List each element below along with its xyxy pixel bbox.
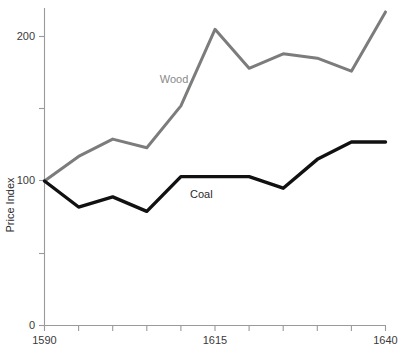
y-axis-title: Price Index (4, 177, 16, 233)
coal-series-label: Coal (190, 188, 213, 200)
chart-svg: 200 100 0 Price Index 1590 1615 1640 Woo… (0, 0, 401, 351)
price-index-line-chart: 200 100 0 Price Index 1590 1615 1640 Woo… (0, 0, 401, 351)
x-tick-label-1615: 1615 (203, 334, 227, 346)
y-tick-label-100: 100 (17, 174, 35, 186)
y-tick-label-200: 200 (17, 30, 35, 42)
y-tick-label-0: 0 (29, 319, 35, 331)
x-tick-label-1590: 1590 (32, 334, 56, 346)
x-tick-label-1640: 1640 (373, 334, 397, 346)
wood-series-label: Wood (160, 73, 189, 85)
